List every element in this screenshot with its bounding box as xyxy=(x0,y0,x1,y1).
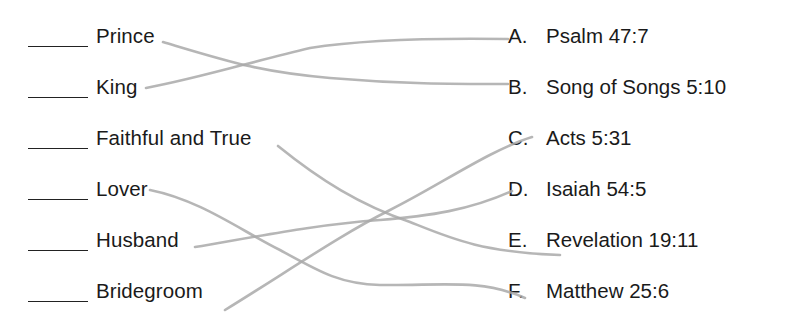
reference-text: Acts 5:31 xyxy=(546,126,631,150)
reference-letter: B. xyxy=(508,75,527,99)
match-line-lover-f xyxy=(150,190,525,298)
match-line-husband-d xyxy=(195,191,512,247)
reference-letter: F. xyxy=(508,279,524,303)
term-label: Bridegroom xyxy=(96,279,203,303)
reference-text: Psalm 47:7 xyxy=(546,24,649,48)
term-label: Lover xyxy=(96,177,148,201)
answer-blank[interactable] xyxy=(28,301,88,302)
reference-text: Song of Songs 5:10 xyxy=(546,75,726,99)
reference-letter: A. xyxy=(508,24,527,48)
term-label: Prince xyxy=(96,24,155,48)
term-label: King xyxy=(96,75,137,99)
answer-blank[interactable] xyxy=(28,97,88,98)
answer-blank[interactable] xyxy=(28,199,88,200)
reference-letter: D. xyxy=(508,177,529,201)
reference-text: Isaiah 54:5 xyxy=(546,177,646,201)
answer-blank[interactable] xyxy=(28,250,88,251)
term-label: Faithful and True xyxy=(96,126,252,150)
match-line-bridegroom-c xyxy=(225,137,532,310)
term-label: Husband xyxy=(96,228,179,252)
answer-blank[interactable] xyxy=(28,46,88,47)
reference-letter: E. xyxy=(508,228,527,252)
answer-blank[interactable] xyxy=(28,148,88,149)
reference-text: Revelation 19:11 xyxy=(546,228,698,252)
reference-text: Matthew 25:6 xyxy=(546,279,669,303)
match-line-king-a xyxy=(146,39,508,88)
reference-letter: C. xyxy=(508,126,529,150)
match-line-prince-b xyxy=(163,42,508,84)
